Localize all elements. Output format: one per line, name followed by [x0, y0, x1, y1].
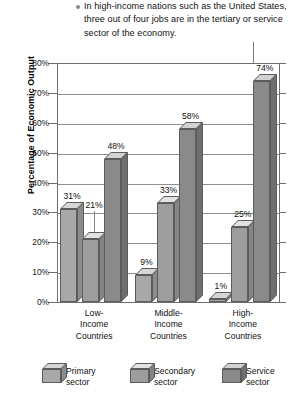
- bar-value-label: 1%: [215, 281, 227, 291]
- bar-side-face: [196, 122, 203, 302]
- bar-3-secondary: [231, 227, 248, 302]
- bar-front-face: [231, 227, 248, 302]
- value-label-stem: [94, 211, 95, 232]
- category-label-line: Income: [52, 319, 136, 330]
- bar-front-face: [253, 81, 270, 302]
- y-axis-tick: [48, 302, 57, 303]
- cube-front-face: [42, 369, 61, 383]
- y-axis-tick-label: 10%: [9, 267, 49, 277]
- bar-side-face: [270, 74, 277, 302]
- caption-row: In high-income nations such as the Unite…: [76, 0, 298, 40]
- bar-value-label: 74%: [256, 63, 273, 73]
- bar-side-face: [121, 152, 128, 302]
- bar-value-label: 21%: [86, 200, 103, 210]
- caption-text: In high-income nations such as the Unite…: [84, 0, 298, 40]
- y-axis-tick: [48, 242, 57, 243]
- y-axis-tick-label: 40%: [9, 178, 49, 188]
- y-axis-tick-right: [279, 123, 286, 124]
- cube-front-face: [222, 369, 241, 383]
- category-label-line: Countries: [52, 331, 136, 342]
- y-axis-tick: [48, 212, 57, 213]
- y-axis-tick: [48, 183, 57, 184]
- bar-2-service: [179, 129, 196, 302]
- y-axis-tick-right: [279, 93, 286, 94]
- y-axis-tick: [48, 63, 57, 64]
- bar-value-label: 33%: [160, 185, 177, 195]
- gridline: [58, 124, 279, 125]
- legend-item-primary: Primarysector: [42, 362, 96, 387]
- legend-label-line: sector: [246, 377, 275, 388]
- legend-swatch-cube-icon: [42, 369, 61, 383]
- y-axis-tick-right: [279, 212, 286, 213]
- bar-value-label: 58%: [182, 111, 199, 121]
- gridline: [58, 184, 279, 185]
- legend-label-line: Service: [246, 366, 275, 377]
- y-axis-tick: [48, 272, 57, 273]
- legend-label-line: Primary: [66, 366, 96, 377]
- legend-label: Servicesector: [246, 362, 275, 387]
- y-axis-tick-label: 20%: [9, 237, 49, 247]
- category-label-line: Countries: [127, 331, 211, 342]
- legend-swatch-cube-icon: [130, 369, 149, 383]
- y-axis-tick-label: 70%: [9, 88, 49, 98]
- y-axis-tick-right: [279, 272, 286, 273]
- y-axis-tick-label: 0%: [9, 297, 49, 307]
- bar-3-service: [253, 81, 270, 302]
- y-axis-tick-right: [279, 63, 286, 64]
- y-axis-tick: [48, 123, 57, 124]
- bar-front-face: [135, 275, 152, 302]
- x-axis-category-label: Low-IncomeCountries: [52, 308, 136, 342]
- bar-1-primary: [60, 209, 77, 302]
- y-axis-tick-label: 60%: [9, 118, 49, 128]
- legend-swatch-cube-icon: [222, 369, 241, 383]
- bar-front-face: [157, 203, 174, 302]
- legend-label-line: sector: [66, 377, 96, 388]
- y-axis-tick-right: [279, 153, 286, 154]
- bar-front-face: [179, 129, 196, 302]
- category-label-line: High-: [201, 308, 285, 319]
- y-axis-tick-right: [279, 302, 286, 303]
- y-axis-tick-label: 30%: [9, 207, 49, 217]
- bar-1-service: [104, 159, 121, 302]
- bar-front-face: [82, 239, 99, 302]
- bar-1-secondary: [82, 239, 99, 302]
- bar-2-secondary: [157, 203, 174, 302]
- x-axis-category-label: High-IncomeCountries: [201, 308, 285, 342]
- legend-label: Primarysector: [66, 362, 96, 387]
- bar-2-primary: [135, 275, 152, 302]
- bar-value-label: 48%: [108, 141, 125, 151]
- caption-leader-line: [253, 42, 254, 64]
- legend-label: Secondarysector: [154, 362, 195, 387]
- bar-value-label: 25%: [234, 209, 251, 219]
- y-axis-tick-label: 80%: [9, 58, 49, 68]
- category-label-line: Income: [201, 319, 285, 330]
- bar-3-primary: [209, 299, 226, 302]
- category-label-line: Middle-: [127, 308, 211, 319]
- bar-front-face: [104, 159, 121, 302]
- category-label-line: Countries: [201, 331, 285, 342]
- legend-item-secondary: Secondarysector: [130, 362, 195, 387]
- bar-front-face: [209, 299, 226, 302]
- chart-legend: PrimarysectorSecondarysectorServicesecto…: [42, 362, 294, 396]
- caption-block: In high-income nations such as the Unite…: [76, 0, 298, 40]
- gridline: [58, 154, 279, 155]
- y-axis-tick: [48, 153, 57, 154]
- category-label-line: Low-: [52, 308, 136, 319]
- legend-label-line: sector: [154, 377, 195, 388]
- legend-label-line: Secondary: [154, 366, 195, 377]
- bullet-dot-icon: [76, 5, 80, 9]
- cube-front-face: [130, 369, 149, 383]
- bar-front-face: [60, 209, 77, 302]
- gridline: [58, 94, 279, 95]
- y-axis-tick-right: [279, 183, 286, 184]
- legend-item-service: Servicesector: [222, 362, 275, 387]
- bar-value-label: 31%: [64, 191, 81, 201]
- y-axis-tick-right: [279, 242, 286, 243]
- x-axis-category-label: Middle-IncomeCountries: [127, 308, 211, 342]
- y-axis-tick-label: 50%: [9, 148, 49, 158]
- bar-value-label: 9%: [140, 257, 152, 267]
- category-label-line: Income: [127, 319, 211, 330]
- y-axis-tick: [48, 93, 57, 94]
